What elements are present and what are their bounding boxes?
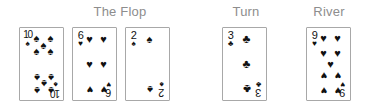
- card-six-of-hearts[interactable]: 6♥6♥♥♥♥♥♥♥: [72, 27, 117, 101]
- section-heading-turn: Turn: [218, 4, 274, 20]
- card-pip-hearts-icon: ♥: [100, 84, 107, 95]
- section-heading-the-flop: The Flop: [64, 4, 176, 20]
- card-pip-clubs-icon: ♣: [243, 83, 251, 95]
- section-heading-river: River: [298, 4, 360, 20]
- card-pip-spades-icon: ♠: [48, 46, 54, 57]
- card-three-of-clubs[interactable]: 3♣3♣♣♣♣: [222, 27, 267, 101]
- card-pip-spades-icon: ♠: [34, 84, 40, 95]
- card-pip-hearts-icon: ♥: [334, 84, 341, 95]
- card-pip-hearts-icon: ♥: [320, 47, 327, 58]
- card-pip-hearts-icon: ♥: [334, 33, 341, 44]
- card-pip-field: ♥♥♥♥♥♥: [84, 31, 109, 97]
- card-pip-spades-icon: ♠: [34, 46, 40, 57]
- card-pip-spades-icon: ♠: [147, 84, 153, 95]
- card-pip-spades-icon: ♠: [34, 33, 40, 44]
- card-pip-hearts-icon: ♥: [327, 59, 334, 70]
- card-pip-hearts-icon: ♥: [100, 59, 107, 70]
- card-pip-hearts-icon: ♥: [334, 47, 341, 58]
- card-pip-hearts-icon: ♥: [320, 33, 327, 44]
- card-pip-hearts-icon: ♥: [86, 33, 93, 44]
- card-ten-of-spades[interactable]: 10♠10♠♠♠♠♠♠♠♠♠♠♠: [19, 27, 64, 101]
- card-pip-spades-icon: ♠: [48, 84, 54, 95]
- card-pip-hearts-icon: ♥: [334, 70, 341, 81]
- card-two-of-spades[interactable]: 2♠2♠♠♠: [125, 27, 170, 101]
- card-nine-of-hearts[interactable]: 9♥9♥♥♥♥♥♥♥♥♥♥: [306, 27, 351, 101]
- card-pip-spades-icon: ♠: [48, 33, 54, 44]
- card-pip-hearts-icon: ♥: [100, 33, 107, 44]
- card-pip-field: ♣♣♣: [234, 31, 259, 97]
- card-pip-hearts-icon: ♥: [86, 84, 93, 95]
- card-pip-spades-icon: ♠: [147, 33, 153, 44]
- card-pip-clubs-icon: ♣: [243, 33, 251, 45]
- card-pip-spades-icon: ♠: [41, 78, 47, 89]
- poker-board: The FlopTurnRiver10♠10♠♠♠♠♠♠♠♠♠♠♠6♥6♥♥♥♥…: [0, 0, 377, 110]
- card-pip-spades-icon: ♠: [48, 71, 54, 82]
- card-pip-hearts-icon: ♥: [320, 70, 327, 81]
- card-pip-spades-icon: ♠: [41, 39, 47, 50]
- card-pip-hearts-icon: ♥: [86, 59, 93, 70]
- card-pip-field: ♥♥♥♥♥♥♥♥♥: [318, 31, 343, 97]
- card-pip-field: ♠♠♠♠♠♠♠♠♠♠: [31, 31, 56, 97]
- card-pip-clubs-icon: ♣: [243, 58, 251, 70]
- card-pip-spades-icon: ♠: [34, 71, 40, 82]
- card-pip-field: ♠♠: [137, 31, 162, 97]
- card-pip-hearts-icon: ♥: [320, 84, 327, 95]
